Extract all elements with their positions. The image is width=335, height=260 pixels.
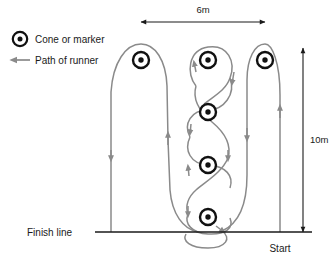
path-start-leg [265,44,280,232]
legend: Cone or marker Path of runner [12,32,105,66]
finish-line-label: Finish line [27,227,72,238]
arrow-lobe-3 [188,166,189,176]
dimension-horizontal: 6m [141,4,265,22]
path-left-ascent [168,140,198,232]
agility-drill-diagram: Cone or marker Path of runner [0,0,335,260]
cone-marker-icon [13,32,27,46]
middle-cone-1 [200,52,216,68]
arrow-lobe-1 [232,72,234,84]
arrow-bottom-loop [216,226,224,232]
dimension-vertical: 10m [303,48,329,232]
arrow-lobe-1-left [194,62,196,72]
dimension-horizontal-label: 6m [196,4,209,15]
runner-path-group [111,44,280,248]
middle-cone-4 [200,209,216,225]
legend-label-path: Path of runner [35,55,99,66]
legend-item-path: Path of runner [12,55,99,66]
legend-label-cone: Cone or marker [35,34,105,45]
finish-line-group: Finish line Start [27,227,312,255]
diagram-canvas: Cone or marker Path of runner [0,0,335,260]
middle-cone-2 [200,104,216,120]
right-cone [257,52,273,68]
left-cone [133,52,149,68]
arrow-lobe-2 [190,124,191,134]
path-figure8-cross-a [195,86,229,158]
dimension-vertical-label: 10m [310,134,329,145]
path-left-descent [111,44,141,232]
legend-item-cone: Cone or marker [13,32,105,46]
start-label: Start [269,243,290,254]
cones-group [133,52,273,225]
middle-cone-3 [200,157,216,173]
